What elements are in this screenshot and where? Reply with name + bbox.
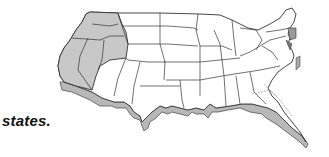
us-map [0,0,329,157]
highlight-east-coast [296,56,300,70]
caption-text: states. [2,112,51,129]
